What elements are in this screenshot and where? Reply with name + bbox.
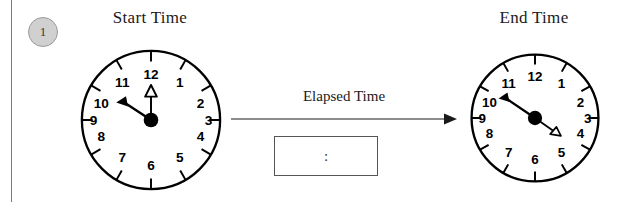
page-left-rule: [11, 0, 12, 202]
svg-text:6: 6: [147, 158, 155, 173]
elapsed-time-answer-value: :: [324, 149, 328, 164]
start-clock-face: 12 1 2 3 4 5 6 7 8 9 10 11: [78, 46, 224, 194]
start-clock-center-dot: [144, 113, 159, 128]
worksheet-problem-canvas: 1 Start Time 12 1 2: [0, 0, 638, 202]
svg-text:10: 10: [482, 95, 497, 110]
end-clock-title: End Time: [462, 8, 606, 28]
elapsed-time-answer-box[interactable]: :: [274, 136, 378, 176]
end-clock: 12 1 2 3 4 5 6 7 8 9 10 11: [468, 50, 602, 186]
svg-text:3: 3: [205, 113, 213, 128]
svg-text:3: 3: [584, 111, 591, 126]
problem-number-badge: 1: [28, 17, 58, 47]
svg-text:5: 5: [176, 150, 184, 165]
svg-text:7: 7: [505, 145, 512, 160]
svg-text:5: 5: [558, 145, 566, 160]
end-clock-face: 12 1 2 3 4 5 6 7 8 9 10 11: [468, 50, 602, 186]
svg-text:9: 9: [90, 113, 98, 128]
elapsed-time-arrow: [228, 108, 460, 130]
svg-text:8: 8: [98, 129, 106, 144]
svg-text:9: 9: [479, 111, 486, 126]
svg-text:2: 2: [577, 95, 584, 110]
svg-text:11: 11: [502, 76, 517, 91]
end-clock-center-dot: [528, 111, 542, 125]
svg-text:12: 12: [528, 69, 543, 84]
svg-text:1: 1: [558, 76, 566, 91]
svg-text:10: 10: [94, 96, 110, 111]
svg-text:6: 6: [531, 152, 538, 167]
elapsed-time-label: Elapsed Time: [232, 88, 456, 105]
svg-text:4: 4: [577, 126, 585, 141]
start-clock-title: Start Time: [78, 8, 222, 28]
svg-text:8: 8: [486, 126, 494, 141]
svg-text:4: 4: [197, 129, 205, 144]
svg-text:1: 1: [176, 75, 184, 90]
svg-text:2: 2: [197, 96, 205, 111]
svg-text:7: 7: [118, 150, 126, 165]
start-clock: 12 1 2 3 4 5 6 7 8 9 10 11: [78, 46, 224, 194]
svg-text:12: 12: [143, 67, 159, 82]
problem-number-label: 1: [40, 24, 47, 40]
svg-text:11: 11: [115, 75, 130, 90]
